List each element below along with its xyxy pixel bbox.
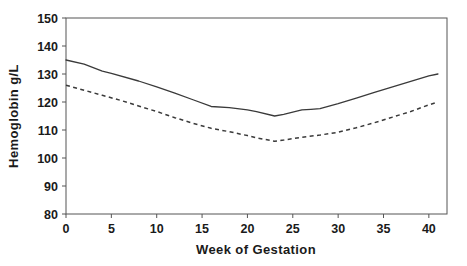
y-axis-tick-marks xyxy=(62,18,66,214)
chart-canvas: 8090100110120130140150 0510152025303540 … xyxy=(0,0,467,266)
plot-frame xyxy=(66,18,447,214)
plot-frame-box xyxy=(66,18,447,214)
x-tick-label: 5 xyxy=(108,222,115,236)
x-tick-label: 15 xyxy=(195,222,209,236)
y-tick-label: 80 xyxy=(44,208,58,222)
y-tick-label: 120 xyxy=(37,96,58,110)
x-tick-label: 40 xyxy=(422,222,436,236)
x-tick-label: 10 xyxy=(150,222,164,236)
x-tick-label: 0 xyxy=(63,222,70,236)
y-axis-tick-labels: 8090100110120130140150 xyxy=(37,12,58,222)
y-tick-label: 150 xyxy=(37,12,58,26)
x-axis-tick-labels: 0510152025303540 xyxy=(63,222,436,236)
upper-solid-curve xyxy=(66,60,438,116)
x-tick-label: 35 xyxy=(377,222,391,236)
y-tick-label: 90 xyxy=(44,180,58,194)
y-tick-label: 140 xyxy=(37,40,58,54)
y-tick-label: 110 xyxy=(38,124,58,138)
hemoglobin-gestation-chart: 8090100110120130140150 0510152025303540 … xyxy=(0,0,467,266)
y-tick-label: 100 xyxy=(37,152,58,166)
x-axis-title: Week of Gestation xyxy=(196,242,316,257)
y-axis-title: Hemoglobin g/L xyxy=(6,64,21,168)
series-group xyxy=(66,60,438,141)
x-tick-label: 25 xyxy=(286,222,300,236)
x-tick-label: 20 xyxy=(240,222,254,236)
x-tick-label: 30 xyxy=(331,222,345,236)
lower-dashed-curve xyxy=(66,85,438,141)
x-axis-tick-marks xyxy=(66,214,429,218)
y-tick-label: 130 xyxy=(37,68,58,82)
